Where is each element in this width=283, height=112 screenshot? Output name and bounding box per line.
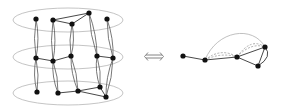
node	[103, 94, 108, 99]
equivalence-arrow-icon	[145, 53, 164, 61]
inter-layer-edge	[35, 19, 37, 58]
inter-layer-edge	[89, 13, 97, 56]
solid-edge	[237, 47, 265, 57]
node	[262, 44, 267, 49]
intra-layer-edge	[78, 91, 106, 97]
node	[34, 89, 39, 94]
node	[104, 16, 109, 21]
node	[68, 53, 73, 58]
intra-layer-edge	[78, 87, 100, 91]
node	[33, 55, 38, 60]
node	[75, 88, 80, 93]
multilayer-equivalence-diagram	[0, 0, 283, 112]
inter-layer-edge	[107, 19, 113, 58]
node	[94, 53, 99, 58]
inter-layer-edge	[53, 20, 55, 61]
node	[255, 63, 260, 68]
node	[180, 53, 185, 58]
solid-edge	[183, 56, 205, 60]
intra-layer-edges	[36, 13, 113, 97]
inter-layer-edge	[52, 20, 54, 61]
intra-layer-edge	[58, 91, 78, 93]
inter-layer-edge	[36, 58, 38, 92]
inter-layer-edge	[71, 56, 78, 91]
solid-edge	[205, 57, 237, 60]
node	[50, 17, 55, 22]
node	[50, 58, 55, 63]
node	[202, 57, 207, 62]
node	[69, 21, 74, 26]
solid-edge	[237, 57, 258, 66]
solid-edges	[183, 47, 268, 66]
node	[97, 84, 102, 89]
node	[234, 54, 239, 59]
right-aggregated-graph	[180, 33, 267, 68]
inter-layer-edge	[89, 13, 97, 56]
node	[33, 16, 38, 21]
inter-layer-edge	[36, 19, 38, 58]
left-multilayer-network	[13, 8, 123, 105]
intra-layer-edge	[53, 20, 72, 24]
node	[110, 55, 115, 60]
dashed-edge	[237, 44, 265, 57]
left-nodes	[33, 10, 115, 99]
intra-layer-edge	[53, 56, 71, 61]
node	[86, 10, 91, 15]
inter-layer-edge	[71, 56, 78, 91]
node	[55, 90, 60, 95]
inter-layer-edge	[70, 24, 72, 56]
